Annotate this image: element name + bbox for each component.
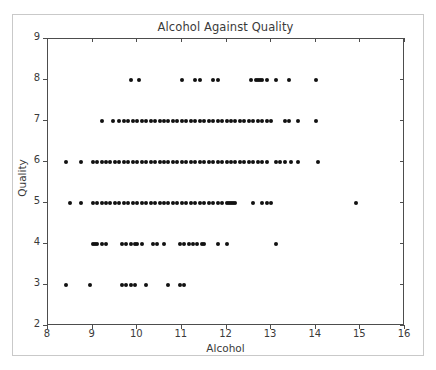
y-tick-label: 4 [14,236,40,247]
data-point [202,119,206,123]
data-point [202,201,206,205]
data-point [155,242,159,246]
data-point [265,119,269,123]
data-point [211,160,215,164]
data-point [129,78,133,82]
data-point [207,201,211,205]
data-point [111,119,115,123]
x-tick-label: 8 [32,328,62,339]
data-point [256,160,260,164]
data-point [100,201,104,205]
x-axis-label: Alcohol [47,342,404,354]
y-tick-mark-right [400,79,404,80]
data-point [247,119,251,123]
data-point [180,119,184,123]
data-point [131,119,135,123]
data-point [260,78,264,82]
data-point [104,242,108,246]
data-point [175,160,179,164]
data-point [144,160,148,164]
data-point [162,242,166,246]
data-point [126,201,130,205]
data-point [100,160,104,164]
data-point [122,201,126,205]
data-point [122,119,126,123]
data-point [189,119,193,123]
data-point [117,119,121,123]
data-point [126,119,130,123]
y-tick-mark [43,38,47,39]
data-point [175,119,179,123]
data-point [195,242,199,246]
data-point [202,242,206,246]
data-point [166,201,170,205]
data-point [207,160,211,164]
matplotlib-figure: Alcohol Against Quality 8910111213141516… [0,0,436,370]
data-point [95,201,99,205]
y-tick-mark [43,202,47,203]
data-point [91,160,95,164]
chart-title: Alcohol Against Quality [47,20,404,34]
data-point [100,119,104,123]
y-tick-mark-right [400,120,404,121]
x-tick-mark-top [92,38,93,42]
data-point [166,160,170,164]
data-point [184,160,188,164]
data-point [189,160,193,164]
y-tick-mark-right [400,325,404,326]
data-point [296,119,300,123]
x-tick-mark-top [226,38,227,42]
y-tick-mark-right [400,243,404,244]
x-tick-mark-top [315,38,316,42]
x-tick-label: 11 [166,328,196,339]
data-point [260,160,264,164]
y-tick-mark-right [400,202,404,203]
data-point [108,160,112,164]
data-point [233,119,237,123]
data-point [117,201,121,205]
data-point [187,242,191,246]
data-point [120,283,124,287]
data-point [198,119,202,123]
x-tick-label: 14 [300,328,330,339]
data-point [113,160,117,164]
data-point [158,201,162,205]
data-point [133,283,137,287]
data-point [314,78,318,82]
data-point [131,201,135,205]
data-point [129,242,133,246]
y-tick-label: 3 [14,277,40,288]
data-point [144,119,148,123]
data-point [91,201,95,205]
data-point [265,160,269,164]
data-point [260,201,264,205]
data-point [104,160,108,164]
scatter-points-layer [48,39,403,324]
x-tick-mark-top [181,38,182,42]
data-point [242,119,246,123]
data-point [68,201,72,205]
data-point [95,160,99,164]
data-point [158,119,162,123]
data-point [220,119,224,123]
x-tick-label: 16 [389,328,419,339]
data-point [153,201,157,205]
data-point [193,201,197,205]
x-tick-mark-top [47,38,48,42]
data-point [287,78,291,82]
data-point [265,201,269,205]
x-tick-mark-top [270,38,271,42]
data-point [225,242,229,246]
data-point [198,160,202,164]
data-point [178,283,182,287]
data-point [225,160,229,164]
data-point [120,242,124,246]
data-point [278,160,282,164]
data-point [289,160,293,164]
data-point [122,160,126,164]
data-point [171,201,175,205]
data-point [182,283,186,287]
data-point [117,160,121,164]
data-point [269,119,273,123]
data-point [256,119,260,123]
